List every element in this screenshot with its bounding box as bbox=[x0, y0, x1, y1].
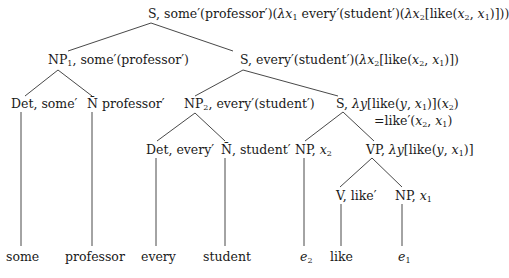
leaf-student: student bbox=[203, 250, 251, 264]
edge-np1-n bbox=[58, 70, 92, 96]
leaf-professor: professor bbox=[65, 250, 125, 264]
node-det-some: Det, some′ bbox=[11, 97, 77, 111]
leaf-e2: e2 bbox=[300, 250, 313, 264]
node-det-every: Det, every′ bbox=[146, 143, 214, 157]
node-s-lambda-reduction: =like′(x2, x1) bbox=[374, 114, 452, 128]
edge-np2-det bbox=[157, 113, 195, 141]
node-s-every: S, every′(student′)(λx2[like(x2, x1)]) bbox=[240, 53, 459, 67]
edge-np2-n bbox=[195, 113, 225, 141]
edge-vp-v bbox=[340, 158, 372, 187]
leaf-e1: e1 bbox=[398, 250, 411, 264]
node-np2: NP2, every′(student′) bbox=[184, 97, 315, 111]
node-root-s: S, some′(professor′)(λx1 every′(student′… bbox=[148, 7, 509, 21]
edge-s-lambda-np bbox=[305, 112, 343, 141]
leaf-every: every bbox=[141, 250, 176, 264]
edge-np1-det bbox=[25, 70, 58, 96]
node-np-x1: NP, x1 bbox=[395, 189, 432, 203]
leaf-like: like bbox=[330, 250, 353, 264]
node-np1: NP1, some′(professor′) bbox=[48, 53, 189, 67]
edge-root-np1 bbox=[68, 23, 151, 51]
leaf-some: some bbox=[6, 250, 39, 264]
node-s-lambda: S, λy[like(y, x1)](x2) bbox=[336, 97, 459, 111]
node-vp: VP, λy[like(y, x1)] bbox=[366, 143, 474, 157]
edge-vp-np bbox=[372, 158, 402, 187]
edge-root-s-every bbox=[151, 23, 233, 51]
edge-s-every-s-lambda bbox=[243, 70, 338, 96]
edge-s-every-np2 bbox=[195, 70, 243, 96]
node-n-student: N̄, student′ bbox=[221, 143, 291, 157]
node-np-x2: NP, x2 bbox=[295, 143, 332, 157]
edge-s-lambda-vp bbox=[343, 112, 374, 141]
node-v-like: V, like′ bbox=[336, 189, 377, 203]
node-n-professor: N̄ professor′ bbox=[87, 97, 165, 111]
